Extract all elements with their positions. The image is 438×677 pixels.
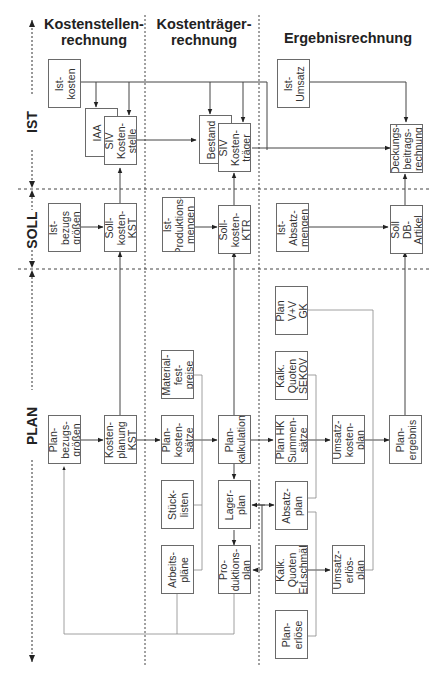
box-kalk-quoten-erl-schmael: Kalk. Quoten Erl.schmäl — [275, 545, 308, 594]
box-ist-produktionsmengen: Ist- Produktions- mengen — [162, 197, 195, 252]
box-umsatzerloesplan: Umsatz- erlös- plan — [332, 545, 365, 594]
box-ist-umsatz: Ist- Umsatz — [277, 59, 310, 108]
box-planerloese: Plan- erlöse — [275, 610, 308, 659]
box-plan-bezugsgroessen: Plan- bezugs- größen — [48, 415, 81, 464]
box-ist-absatzmengen: Ist- Absatz- mengen — [276, 203, 309, 252]
column-title-kostenstellenrechnung: Kostenstellen- rechnung — [40, 16, 148, 48]
box-plan-v-v-gk: Plan V+V GK — [275, 286, 308, 335]
row-label-plan: PLAN — [24, 396, 40, 456]
box-arbeitsplaene: Arbeits- pläne — [161, 545, 194, 594]
box-ist-kosten: Ist- kosten — [48, 59, 81, 108]
row-label-soll: SOLL — [24, 200, 40, 260]
box-plankalkulation: Plan- kalkulation — [218, 415, 251, 464]
box-siv-kostenstelle: SIV Kosten- stelle — [104, 116, 137, 165]
box-deckungsbeitragsrechnung: Deckungs- beitrags- rechnung — [390, 124, 423, 173]
box-absatzplan: Absatz- plan — [275, 481, 308, 530]
box-soll-db-artikel: Soll DB- Artikel — [390, 205, 423, 254]
box-umsatzkostenplan: Umsatz- kosten- plan — [332, 415, 365, 464]
box-kostenplanung-kst: Kosten- planung KST — [104, 415, 137, 464]
box-materialfestpreise: Material- fest- preise — [161, 350, 194, 399]
box-plan-hk-summensaetze: Plan HK Summen- sätze — [275, 415, 308, 464]
box-soll-kosten-kst: Soll- kosten- KST — [104, 203, 137, 252]
column-title-kostentraegerrechnung: Kostenträger- rechnung — [150, 16, 258, 48]
box-produktionsplan: Pro- duktions- plan — [218, 545, 251, 594]
box-stuecklisten: Stück- listen — [161, 480, 194, 529]
column-title-ergebnisrechnung: Ergebnisrechnung — [262, 30, 434, 46]
box-ist-bezugsgroessen: Ist- bezugs größen — [48, 203, 81, 252]
box-planergebnis: Plan- ergebnis — [389, 415, 422, 464]
box-kalk-quoten-sekov: Kalk. Quoten SEKOV — [275, 351, 308, 400]
box-siv-kostentraeger: SIV Kosten- träger — [218, 123, 251, 172]
box-lagerplan: Lager- plan — [218, 480, 251, 529]
box-soll-kosten-ktr: Soll- kosten- KTR — [218, 205, 251, 254]
box-plankostensaetze: Plan- kosten- sätze — [161, 415, 194, 464]
row-label-ist: IST — [24, 92, 40, 152]
